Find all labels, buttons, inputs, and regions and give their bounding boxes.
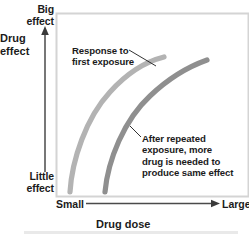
x-axis-title: Drug dose [96, 218, 150, 230]
y-axis-max-label: Big effect [2, 4, 54, 27]
y-axis-min-label-line2: effect [2, 183, 54, 195]
y-axis-max-label-line2: effect [2, 16, 54, 28]
y-axis-max-label-line1: Big [2, 4, 54, 16]
x-axis-min-label: Small [56, 198, 84, 210]
annotation-first-exposure-line2: first exposure [72, 56, 134, 67]
x-axis-arrow-icon [211, 200, 220, 208]
annotation-repeated-exposure-line4: produce same effect [142, 167, 233, 178]
y-axis-title-line1: Drug [0, 32, 40, 45]
annotation-repeated-exposure: After repeated exposure, more drug is ne… [142, 133, 233, 179]
y-axis-title-line2: effect [0, 45, 40, 58]
y-axis-min-label-line1: Little [2, 171, 54, 183]
drug-tolerance-chart: Big effect Little effect Drug effect Sma… [0, 0, 249, 236]
annotation-repeated-exposure-line1: After repeated [142, 133, 233, 144]
y-axis-title: Drug effect [0, 32, 40, 57]
y-axis-min-label: Little effect [2, 171, 54, 194]
annotation-repeated-exposure-line2: exposure, more [142, 144, 233, 155]
annotation-first-exposure-line1: Response to [72, 45, 134, 56]
bottom-divider [24, 231, 238, 234]
x-axis-max-label: Large [222, 198, 249, 210]
y-axis-arrow-icon [41, 26, 49, 35]
annotation-first-exposure: Response to first exposure [72, 45, 134, 68]
annotation-repeated-exposure-line3: drug is needed to [142, 156, 233, 167]
